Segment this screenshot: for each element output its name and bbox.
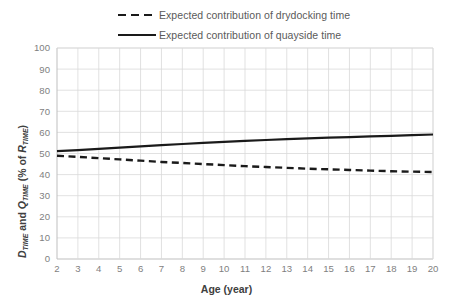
x-tick-label: 5 bbox=[117, 263, 122, 274]
x-tick-label: 18 bbox=[386, 263, 397, 274]
y-tick-label: 100 bbox=[34, 42, 50, 53]
y-tick-label: 10 bbox=[39, 232, 50, 243]
x-tick-label: 8 bbox=[180, 263, 185, 274]
x-tick-label: 11 bbox=[240, 263, 250, 274]
x-tick-label: 6 bbox=[138, 263, 143, 274]
x-tick-label: 19 bbox=[407, 263, 418, 274]
x-tick-label: 15 bbox=[323, 263, 334, 274]
x-tick-label: 16 bbox=[344, 263, 355, 274]
gridlines bbox=[57, 48, 433, 259]
y-tick-label: 30 bbox=[39, 190, 50, 201]
x-axis-title: Age (year) bbox=[0, 283, 453, 295]
x-tick-label: 13 bbox=[281, 263, 292, 274]
y-axis-title: DTIME and QTIME (% of RTIME) bbox=[16, 125, 29, 258]
line-chart: Expected contribution of drydocking time… bbox=[0, 0, 453, 303]
y-tick-label: 20 bbox=[39, 211, 50, 222]
y-tick-label: 80 bbox=[39, 85, 50, 96]
x-tick-label: 7 bbox=[159, 263, 164, 274]
x-tick-label: 4 bbox=[96, 263, 102, 274]
x-tick-label: 9 bbox=[201, 263, 206, 274]
y-axis-ticks: 0102030405060708090100 bbox=[34, 42, 50, 264]
x-tick-label: 3 bbox=[75, 263, 80, 274]
y-tick-label: 60 bbox=[39, 127, 50, 138]
y-tick-label: 90 bbox=[39, 64, 50, 75]
y-tick-label: 40 bbox=[39, 169, 50, 180]
y-tick-label: 0 bbox=[45, 253, 50, 264]
plot-area-container: 0102030405060708090100 23456789101112131… bbox=[0, 0, 453, 303]
x-tick-label: 17 bbox=[365, 263, 376, 274]
x-tick-label: 10 bbox=[219, 263, 230, 274]
y-tick-label: 70 bbox=[39, 106, 50, 117]
y-tick-label: 50 bbox=[39, 148, 50, 159]
x-axis-ticks: 234567891011121314151617181920 bbox=[54, 263, 438, 274]
plot-svg: 0102030405060708090100 23456789101112131… bbox=[0, 0, 453, 303]
x-tick-label: 2 bbox=[54, 263, 59, 274]
x-tick-label: 14 bbox=[302, 263, 313, 274]
x-tick-label: 12 bbox=[261, 263, 272, 274]
x-tick-label: 20 bbox=[428, 263, 439, 274]
